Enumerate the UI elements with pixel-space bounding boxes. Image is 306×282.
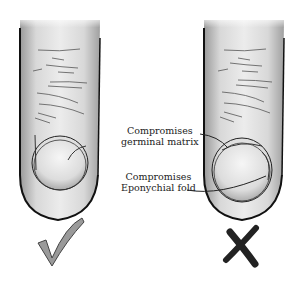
annotation-germinal-matrix: Compromises germinal matrix: [121, 125, 199, 147]
left-finger: [15, 15, 105, 220]
annotation-line: Compromises: [121, 125, 199, 136]
annotation-line: Compromises: [121, 171, 196, 182]
nail-diagram: Compromises germinal matrix Compromises …: [0, 0, 306, 282]
annotation-line: Eponychial fold: [121, 182, 196, 193]
check-mark-icon: [38, 218, 84, 266]
x-mark-icon: [226, 228, 256, 264]
right-finger: [199, 15, 289, 220]
annotation-eponychial-fold: Compromises Eponychial fold: [121, 171, 196, 193]
annotation-line: germinal matrix: [121, 136, 199, 147]
